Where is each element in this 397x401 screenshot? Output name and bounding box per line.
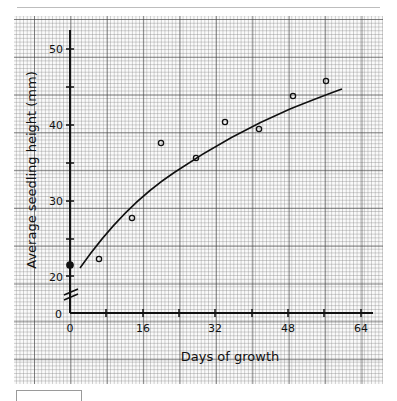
trend-curve (80, 89, 342, 268)
x-tick-label: 16 (136, 322, 150, 335)
y-tick-label: 50 (49, 43, 63, 56)
data-point (256, 126, 261, 131)
data-point (290, 93, 295, 98)
x-tick-label: 64 (354, 322, 368, 335)
data-point (222, 119, 227, 124)
data-point (323, 78, 328, 83)
footer-box (16, 390, 82, 401)
x-tick-label: 32 (208, 322, 222, 335)
y-tick-label: 30 (49, 195, 63, 208)
y-tick-label: 0 (55, 308, 62, 321)
data-point (129, 215, 134, 220)
data-point (158, 140, 163, 145)
y-axis-title: Average seedling height (mm) (24, 71, 39, 268)
x-axis-title: Days of growth (181, 349, 279, 364)
data-point (67, 262, 73, 268)
y-tick-label: 20 (49, 271, 63, 284)
x-tick-label: 0 (67, 322, 74, 335)
y-tick-label: 40 (49, 119, 63, 132)
data-points (67, 78, 329, 268)
data-point (96, 256, 101, 261)
x-tick-label: 48 (281, 322, 295, 335)
